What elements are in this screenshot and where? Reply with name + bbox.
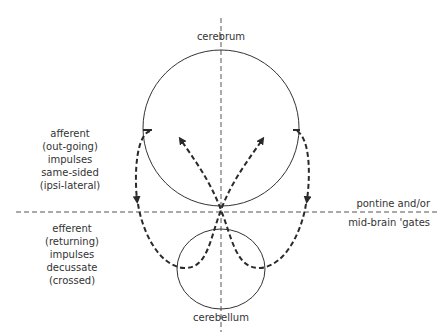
left-efferent-loop [138,140,262,268]
diagram-canvas: cerebrum cerebellum afferent (out-going)… [0,0,439,336]
right-afferent-path [297,131,309,200]
afferent-line-5: (ipsi-lateral) [20,179,120,192]
left-afferent-path [136,131,150,200]
afferent-line-1: afferent [20,127,120,140]
cerebellum-label: cerebellum [186,311,256,324]
efferent-line-1: efferent [22,222,122,235]
afferent-line-2: (out-going) [20,140,120,153]
efferent-line-3: impulses [22,248,122,261]
efferent-line-4: decussate [22,261,122,274]
efferent-label: efferent (returning) impulses decussate … [22,222,122,287]
gate-label-top: pontine and/or [356,197,430,210]
afferent-line-4: same-sided [20,166,120,179]
efferent-line-2: (returning) [22,235,122,248]
gate-label-bottom: mid-brain 'gates [348,216,430,229]
efferent-line-5: (crossed) [22,274,122,287]
right-efferent-loop [181,140,306,268]
afferent-label: afferent (out-going) impulses same-sided… [20,127,120,192]
afferent-line-3: impulses [20,153,120,166]
cerebrum-label: cerebrum [191,30,251,43]
